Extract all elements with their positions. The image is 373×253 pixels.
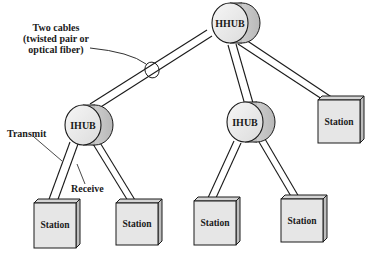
cables-annotation-line1: Two cables bbox=[14, 22, 98, 33]
station-1-label: Station bbox=[34, 220, 76, 231]
cable-ihub-right-station-4 bbox=[259, 139, 299, 198]
cable-ihub-right-station-3 bbox=[207, 141, 241, 200]
ihub-left-label: IHUB bbox=[67, 120, 99, 131]
cables-annotation-line2: (twisted pair or bbox=[14, 33, 98, 44]
hhub-label: HHUB bbox=[213, 18, 247, 29]
cable-hhub-ihub-right bbox=[228, 44, 253, 105]
ihub-right-label: IHUB bbox=[229, 117, 261, 128]
cable-hhub-ihub-left bbox=[90, 30, 212, 110]
station-3-label: Station bbox=[194, 218, 236, 229]
station-top-right-label: Station bbox=[318, 117, 360, 128]
cable-hhub-station-top-right bbox=[238, 38, 333, 103]
receive-label: Receive bbox=[71, 183, 104, 194]
station-2-label: Station bbox=[116, 219, 158, 230]
cables-annotation-line3: optical fiber) bbox=[14, 44, 98, 55]
transmit-label: Transmit bbox=[7, 128, 46, 139]
station-4-label: Station bbox=[281, 216, 323, 227]
cables-annotation: Two cables (twisted pair or optical fibe… bbox=[14, 22, 98, 55]
